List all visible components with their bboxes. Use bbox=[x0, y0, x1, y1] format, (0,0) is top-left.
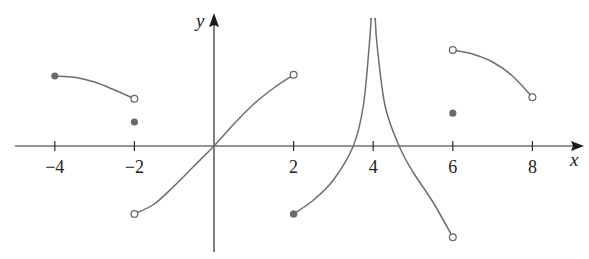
y-axis-arrow-icon bbox=[209, 13, 219, 27]
piece-5-curve bbox=[453, 50, 533, 97]
open-endpoint bbox=[529, 94, 536, 101]
open-endpoint bbox=[131, 211, 138, 218]
isolated-point bbox=[290, 210, 297, 217]
x-axis-label: x bbox=[569, 149, 579, 170]
x-tick-label: 6 bbox=[448, 157, 457, 177]
open-endpoint bbox=[290, 71, 297, 78]
axes: x y −4−22468 bbox=[15, 10, 584, 252]
x-tick-label: −2 bbox=[125, 157, 144, 177]
isolated-point bbox=[131, 118, 138, 125]
x-tick-label: 8 bbox=[528, 157, 537, 177]
x-tick-label: −4 bbox=[45, 157, 64, 177]
curves bbox=[55, 18, 533, 237]
open-endpoint bbox=[131, 95, 138, 102]
x-tick-label: 4 bbox=[369, 157, 378, 177]
isolated-point bbox=[449, 110, 456, 117]
piece-3-curve bbox=[294, 18, 372, 214]
closed-endpoint bbox=[51, 72, 58, 79]
open-endpoint bbox=[449, 47, 456, 54]
function-graph: x y −4−22468 bbox=[0, 0, 589, 259]
x-tick-label: 2 bbox=[289, 157, 298, 177]
open-endpoint bbox=[449, 234, 456, 241]
piece-4-curve bbox=[375, 18, 453, 237]
y-axis-label: y bbox=[194, 10, 205, 31]
piece-1-curve bbox=[55, 76, 135, 99]
